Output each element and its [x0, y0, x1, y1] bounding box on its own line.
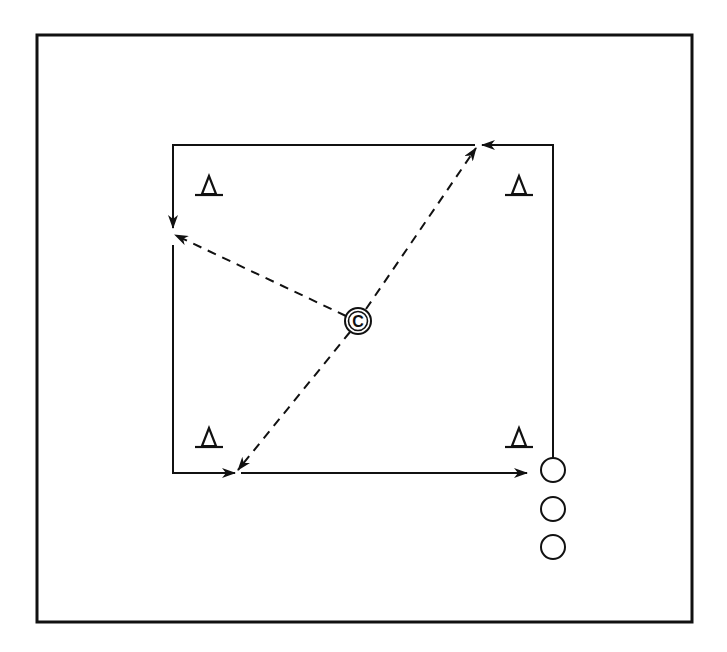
coach-icon: C [345, 308, 371, 334]
pass-to-top-left [175, 235, 346, 316]
pass-to-bottom-left [238, 332, 350, 470]
cone-icon [195, 428, 223, 447]
cone-icon [505, 428, 533, 447]
player-icon [541, 535, 565, 559]
cone-icon [195, 176, 223, 195]
cone-icon [505, 176, 533, 195]
coach-label: C [352, 313, 364, 330]
pass-to-top-right [366, 148, 476, 309]
run-segment-right-top [482, 145, 553, 458]
player-icon [541, 458, 565, 482]
players [541, 458, 565, 559]
drill-diagram: C [0, 0, 727, 652]
player-icon [541, 497, 565, 521]
pass-lines [175, 148, 476, 470]
